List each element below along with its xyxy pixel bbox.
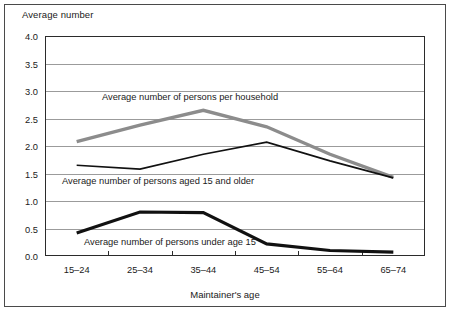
y-axis-tick-label: 4.0: [25, 32, 38, 42]
y-axis-tick-label: 2.0: [25, 142, 38, 152]
x-axis-tick-label: 45–54: [254, 265, 280, 275]
y-axis-tick-label: 0.0: [25, 252, 38, 262]
y-axis-tick-label: 3.0: [25, 87, 38, 97]
x-axis-tick-label: 15–24: [64, 265, 90, 275]
series-annotation: Average number of persons per household: [102, 92, 278, 102]
x-axis-tick-label: 35–44: [190, 265, 216, 275]
y-axis-tick-label: 0.5: [25, 225, 38, 235]
y-axis-tick-label: 1.5: [25, 170, 38, 180]
series-annotation: Average number of persons aged 15 and ol…: [62, 176, 254, 186]
series-annotations-group: Average number of persons per householdA…: [62, 92, 278, 247]
x-axis-tick-label: 65–74: [380, 265, 406, 275]
x-axis-tick-labels-group: 15–2425–3435–4445–5455–6465–74: [64, 265, 407, 275]
y-axis-tick-label: 3.5: [25, 60, 38, 70]
x-axis-tick-label: 55–64: [317, 265, 343, 275]
gridlines-group: [45, 37, 425, 230]
x-axis-tick-label: 25–34: [127, 265, 153, 275]
line-chart-plot: 0.00.51.01.52.02.53.03.54.0 15–2425–3435…: [0, 0, 450, 318]
series-line: [77, 110, 394, 177]
y-axis-tick-label: 1.0: [25, 197, 38, 207]
x-axis-caption: Maintainer's age: [0, 289, 450, 300]
y-axis-tick-labels-group: 0.00.51.01.52.02.53.03.54.0: [25, 32, 38, 262]
series-annotation: Average number of persons under age 15: [84, 237, 256, 247]
y-axis-tick-label: 2.5: [25, 115, 38, 125]
chart-figure: Average number 0.00.51.01.52.02.53.03.54…: [0, 0, 450, 318]
